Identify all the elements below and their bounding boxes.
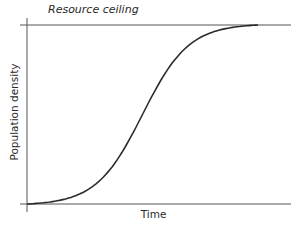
- resource-ceiling-label: Resource ceiling: [48, 3, 139, 16]
- logistic-growth-chart: [0, 0, 299, 226]
- y-axis-label: Population density: [8, 63, 20, 160]
- x-axis-label: Time: [0, 208, 299, 220]
- growth-curve: [27, 25, 258, 204]
